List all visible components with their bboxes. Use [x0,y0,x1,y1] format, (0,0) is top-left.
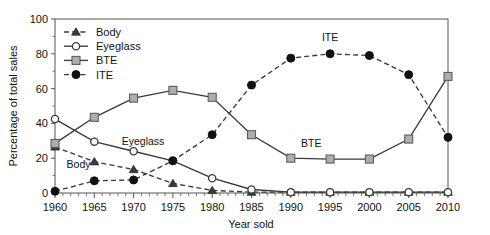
point-ite-1985 [248,81,256,89]
legend-item-eyeglass[interactable]: Eyeglass [64,40,141,52]
x-tick-label-1995: 1995 [318,201,342,213]
point-ite-1970 [130,176,138,184]
legend-label-bte: BTE [96,54,117,66]
x-tick-label-1985: 1985 [239,201,263,213]
point-bte-1975 [169,86,177,94]
point-eyeglass-2010 [444,189,451,196]
point-bte-1995 [326,155,334,163]
legend-marker-eyeglass [72,43,79,50]
legend-label-body: Body [96,26,122,38]
point-bte-1970 [130,94,138,102]
point-bte-1960 [51,139,59,147]
point-ite-2000 [365,52,373,60]
y-tick-label-0: 0 [42,187,48,199]
y-tick-label-40: 40 [36,117,48,129]
y-tick-label-20: 20 [36,152,48,164]
point-eyeglass-1970 [130,148,137,155]
point-eyeglass-1965 [91,138,98,145]
point-eyeglass-1980 [209,175,216,182]
point-ite-1960 [51,187,59,195]
y-axis-title: Percentage of total sales [7,45,19,167]
point-eyeglass-1960 [51,115,58,122]
point-eyeglass-1985 [248,186,255,193]
point-eyeglass-2000 [366,189,373,196]
x-tick-label-1990: 1990 [279,201,303,213]
point-eyeglass-1995 [327,189,334,196]
series-label-bte: BTE [301,137,321,149]
x-tick-label-1980: 1980 [200,201,224,213]
point-ite-1980 [208,131,216,139]
x-tick-labels: 1960196519701975198019851990199520002005… [43,201,460,213]
point-ite-2010 [444,133,452,141]
series-label-ite: ITE [322,31,338,43]
legend-marker-ite [72,71,80,79]
legend-marker-bte [72,56,80,64]
legend-label-eyeglass: Eyeglass [96,40,141,52]
y-tick-label-100: 100 [30,13,48,25]
point-eyeglass-2005 [405,189,412,196]
series-label-body: Body [67,158,92,170]
x-tick-label-1975: 1975 [161,201,185,213]
x-tick-label-1965: 1965 [82,201,106,213]
y-tick-label-80: 80 [36,48,48,60]
point-bte-1985 [248,131,256,139]
point-ite-1965 [90,177,98,185]
point-ite-1995 [326,50,334,58]
x-axis-title: Year sold [228,218,273,230]
point-ite-2005 [405,71,413,79]
x-tick-label-2010: 2010 [436,201,460,213]
legend-label-ite: ITE [96,69,113,81]
x-tick-label-2005: 2005 [396,201,420,213]
point-bte-1990 [287,154,295,162]
point-ite-1990 [287,54,295,62]
point-ite-1975 [169,157,177,165]
line-chart-figure: 020406080100 Percentage of total sales 1… [0,0,490,235]
point-bte-2005 [405,135,413,143]
series-label-eyeglass: Eyeglass [122,135,165,147]
point-bte-2000 [365,155,373,163]
point-bte-2010 [444,72,452,80]
point-bte-1980 [208,93,216,101]
x-tick-label-2000: 2000 [357,201,381,213]
x-tick-label-1960: 1960 [43,201,67,213]
point-eyeglass-1990 [287,189,294,196]
y-tick-label-60: 60 [36,83,48,95]
x-tick-label-1970: 1970 [121,201,145,213]
point-bte-1965 [90,113,98,121]
